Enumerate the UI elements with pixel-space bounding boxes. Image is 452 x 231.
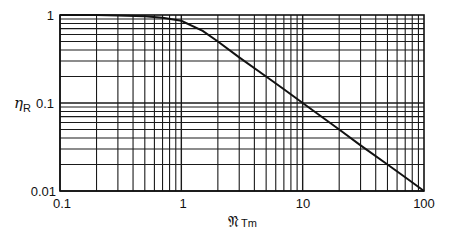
x-axis-label-sub: Tm bbox=[241, 217, 257, 229]
y-tick-1: 1 bbox=[47, 8, 54, 23]
y-axis-label-main: η bbox=[14, 94, 23, 112]
x-tick-100: 100 bbox=[413, 196, 435, 211]
y-axis-label: ηR bbox=[14, 94, 31, 114]
x-tick-0.1: 0.1 bbox=[53, 196, 71, 211]
y-tick-0.1: 0.1 bbox=[36, 96, 54, 111]
x-axis-label-main: 𝔑 bbox=[228, 213, 239, 231]
x-tick-1: 1 bbox=[179, 196, 186, 211]
x-tick-10: 10 bbox=[296, 196, 310, 211]
x-axis-label: 𝔑Tm bbox=[228, 213, 257, 231]
log-log-chart: 1 0.1 0.01 0.1 1 10 100 ηR 𝔑Tm bbox=[0, 0, 452, 231]
y-axis-label-sub: R bbox=[23, 102, 31, 114]
grid-lines bbox=[60, 15, 424, 191]
